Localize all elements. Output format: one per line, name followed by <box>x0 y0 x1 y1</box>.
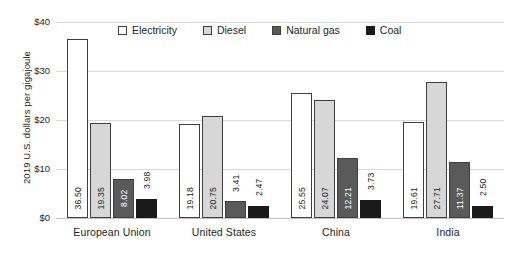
x-axis-category-label: India <box>392 226 504 238</box>
bar-value-label: 8.02 <box>119 190 128 208</box>
bar-column: 3.73 <box>360 22 381 218</box>
bar-value-label: 3.41 <box>231 174 240 192</box>
bar-column: 27.71 <box>426 22 447 218</box>
bar-coal[interactable] <box>136 199 157 219</box>
bar-diesel[interactable]: 24.07 <box>314 100 335 218</box>
bar-column: 19.35 <box>90 22 111 218</box>
y-axis-tick-label: $20 <box>22 115 50 125</box>
x-axis-category-labels: European UnionUnited StatesChinaIndia <box>56 226 504 238</box>
bar-diesel[interactable]: 27.71 <box>426 82 447 218</box>
y-axis-tick-label: $0 <box>22 213 50 223</box>
bar-value-label: 20.75 <box>208 187 217 210</box>
y-axis-tick-label: $30 <box>22 66 50 76</box>
bar-electricity[interactable]: 19.61 <box>403 122 424 218</box>
plot-area: 36.5019.358.023.9819.1820.753.412.4725.5… <box>56 22 504 218</box>
x-axis-category-label: China <box>280 226 392 238</box>
bar-value-label: 19.18 <box>185 187 194 210</box>
bar-value-label: 11.37 <box>455 188 464 210</box>
bar-naturalgas[interactable]: 8.02 <box>113 179 134 218</box>
bars: 19.6127.7111.372.50 <box>392 22 504 218</box>
x-axis-category-label: European Union <box>56 226 168 238</box>
bar-column: 24.07 <box>314 22 335 218</box>
bar-value-label: 2.47 <box>254 179 263 197</box>
bar-chart: 2019 U.S. dollars per gigajoule $40$30$2… <box>0 0 511 275</box>
bar-electricity[interactable]: 36.50 <box>67 39 88 218</box>
bar-column: 20.75 <box>202 22 223 218</box>
bar-value-label: 19.35 <box>96 187 105 210</box>
bar-value-label: 25.55 <box>297 187 306 210</box>
bar-column: 25.55 <box>291 22 312 218</box>
bar-column: 8.02 <box>113 22 134 218</box>
y-axis-tick-label: $40 <box>22 17 50 27</box>
bar-group: 19.6127.7111.372.50 <box>392 22 504 218</box>
bar-value-label: 12.21 <box>343 187 352 210</box>
bar-electricity[interactable]: 25.55 <box>291 93 312 218</box>
bar-group: 19.1820.753.412.47 <box>168 22 280 218</box>
bar-column: 36.50 <box>67 22 88 218</box>
bar-naturalgas[interactable]: 12.21 <box>337 158 358 218</box>
bar-value-label: 19.61 <box>409 187 418 210</box>
bar-value-label: 24.07 <box>320 187 329 210</box>
bar-value-label: 27.71 <box>432 187 441 210</box>
y-axis-tick-label: $10 <box>22 164 50 174</box>
bar-naturalgas[interactable] <box>225 201 246 218</box>
bars: 36.5019.358.023.98 <box>56 22 168 218</box>
bar-column: 3.41 <box>225 22 246 218</box>
bar-group: 36.5019.358.023.98 <box>56 22 168 218</box>
gridline <box>56 218 504 219</box>
bar-value-label: 36.50 <box>73 187 82 210</box>
bar-column: 19.61 <box>403 22 424 218</box>
bar-diesel[interactable]: 20.75 <box>202 116 223 218</box>
bar-value-label: 3.73 <box>366 173 375 191</box>
bar-column: 11.37 <box>449 22 470 218</box>
bar-column: 19.18 <box>179 22 200 218</box>
bar-coal[interactable] <box>248 206 269 218</box>
bars: 19.1820.753.412.47 <box>168 22 280 218</box>
bar-coal[interactable] <box>360 200 381 218</box>
bar-column: 2.50 <box>472 22 493 218</box>
bar-value-label: 2.50 <box>478 179 487 197</box>
bar-diesel[interactable]: 19.35 <box>90 123 111 218</box>
bars: 25.5524.0712.213.73 <box>280 22 392 218</box>
bar-group: 25.5524.0712.213.73 <box>280 22 392 218</box>
bar-groups: 36.5019.358.023.9819.1820.753.412.4725.5… <box>56 22 504 218</box>
bar-column: 2.47 <box>248 22 269 218</box>
bar-column: 3.98 <box>136 22 157 218</box>
bar-electricity[interactable]: 19.18 <box>179 124 200 218</box>
bar-column: 12.21 <box>337 22 358 218</box>
x-axis-category-label: United States <box>168 226 280 238</box>
bar-naturalgas[interactable]: 11.37 <box>449 162 470 218</box>
bar-coal[interactable] <box>472 206 493 218</box>
bar-value-label: 3.98 <box>142 171 151 189</box>
